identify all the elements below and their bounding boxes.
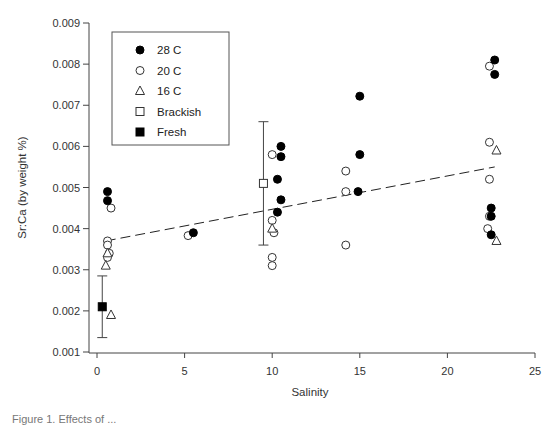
point-16-c xyxy=(107,310,116,319)
y-tick-label: 0.006 xyxy=(52,140,80,152)
legend: 28 C20 C16 CBrackishFresh xyxy=(112,32,229,145)
point-20-c xyxy=(268,253,276,261)
point-28-c xyxy=(277,153,285,161)
x-tick-label: 25 xyxy=(529,365,541,377)
error-bars xyxy=(97,122,268,338)
point-20-c xyxy=(485,138,493,146)
point-28-c xyxy=(491,70,499,78)
regression-line xyxy=(106,167,495,241)
axes: 0.0010.0020.0030.0040.0050.0060.0070.008… xyxy=(16,17,541,398)
y-axis-title: Sr:Ca (by weight %) xyxy=(16,136,28,238)
point-28-c xyxy=(487,231,495,239)
y-tick-label: 0.002 xyxy=(52,305,80,317)
point-28-c xyxy=(277,142,285,150)
legend-label: 20 C xyxy=(157,65,181,77)
y-tick-label: 0.004 xyxy=(52,223,80,235)
y-tick-label: 0.001 xyxy=(52,346,80,358)
point-16-c xyxy=(492,145,501,154)
point-28-c xyxy=(104,188,112,196)
figure-caption: Figure 1. Effects of ... xyxy=(12,413,116,425)
x-tick-label: 20 xyxy=(441,365,453,377)
x-tick-label: 0 xyxy=(94,365,100,377)
y-tick-label: 0.009 xyxy=(52,17,80,29)
point-20-c xyxy=(268,262,276,270)
point-20-c xyxy=(342,241,350,249)
y-tick-label: 0.007 xyxy=(52,99,80,111)
x-tick-label: 10 xyxy=(266,365,278,377)
point-28-c xyxy=(487,212,495,220)
point-fresh xyxy=(98,303,106,311)
legend-label: Fresh xyxy=(157,126,186,138)
point-20-c xyxy=(107,204,115,212)
point-20-c xyxy=(485,175,493,183)
legend-marker-brackish xyxy=(136,108,144,116)
point-16-c xyxy=(101,261,110,270)
legend-label: 16 C xyxy=(157,85,181,97)
point-28-c xyxy=(104,197,112,205)
point-28-c xyxy=(273,175,281,183)
trendline xyxy=(106,167,495,241)
y-tick-label: 0.005 xyxy=(52,182,80,194)
point-20-c xyxy=(268,151,276,159)
point-28-c xyxy=(487,204,495,212)
point-28-c xyxy=(491,56,499,64)
x-tick-label: 15 xyxy=(354,365,366,377)
point-16-c xyxy=(268,224,277,233)
legend-marker-28-c xyxy=(136,46,144,54)
point-20-c xyxy=(342,188,350,196)
legend-label: Brackish xyxy=(157,106,201,118)
y-tick-label: 0.003 xyxy=(52,264,80,276)
point-20-c xyxy=(342,167,350,175)
y-tick-label: 0.008 xyxy=(52,58,80,70)
legend-label: 28 C xyxy=(157,44,181,56)
point-28-c xyxy=(356,151,364,159)
x-tick-label: 5 xyxy=(182,365,188,377)
point-28-c xyxy=(356,92,364,100)
point-28-c xyxy=(273,208,281,216)
point-28-c xyxy=(189,229,197,237)
point-28-c xyxy=(354,188,362,196)
legend-marker-fresh xyxy=(136,128,144,136)
legend-marker-20-c xyxy=(136,67,144,75)
point-28-c xyxy=(277,196,285,204)
point-brackish xyxy=(259,179,267,187)
x-axis-title: Salinity xyxy=(291,386,328,398)
